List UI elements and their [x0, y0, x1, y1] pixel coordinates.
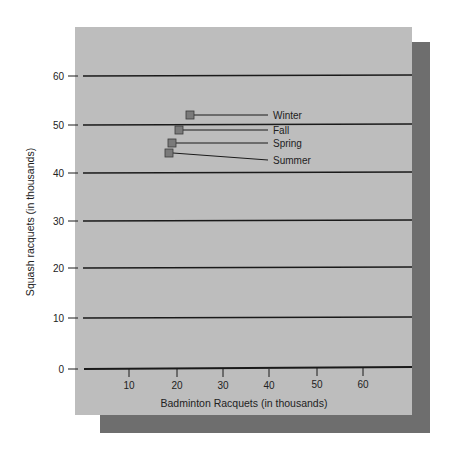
point-fall[interactable] [175, 126, 183, 134]
y-tick-10: 10 [53, 313, 65, 324]
y-tick-50: 50 [53, 120, 65, 131]
x-tick-labels: 10 20 30 40 50 60 [123, 379, 369, 391]
series-labels: Winter Fall Spring Summer [273, 110, 311, 166]
x-tick-40: 40 [263, 380, 275, 391]
y-tick-labels: 60 50 40 30 20 10 0 [53, 71, 65, 375]
chart-svg: 60 50 40 30 20 10 0 10 20 30 40 50 60 Ba… [0, 0, 453, 459]
point-summer[interactable] [165, 149, 173, 157]
y-tick-60: 60 [53, 71, 65, 82]
gridlines [83, 75, 412, 369]
x-tick-30: 30 [217, 380, 229, 391]
leader-lines [173, 115, 268, 160]
y-tick-0: 0 [58, 364, 64, 375]
y-tick-40: 40 [53, 168, 65, 179]
data-points [165, 111, 194, 157]
x-tick-20: 20 [171, 380, 183, 391]
x-tick-10: 10 [123, 380, 135, 391]
point-winter[interactable] [186, 111, 194, 119]
label-spring: Spring [273, 138, 302, 149]
point-spring[interactable] [168, 139, 176, 147]
x-axis-title: Badminton Racquets (in thousands) [161, 397, 328, 409]
y-tick-marks [68, 76, 78, 369]
x-tick-50: 50 [311, 379, 323, 390]
label-winter: Winter [273, 110, 303, 121]
y-tick-20: 20 [53, 263, 65, 274]
label-summer: Summer [273, 155, 311, 166]
y-axis-title: Squash racquets (in thousands) [24, 148, 36, 296]
y-tick-30: 30 [53, 216, 65, 227]
x-tick-60: 60 [357, 379, 369, 390]
label-fall: Fall [273, 125, 289, 136]
